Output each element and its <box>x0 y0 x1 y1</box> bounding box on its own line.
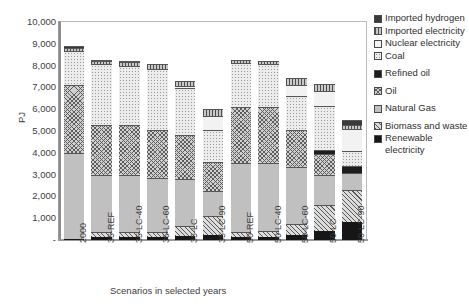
x-axis-tick-label: 2000 <box>78 223 88 243</box>
x-axis-tick-label: 35-REF <box>106 212 116 243</box>
legend-item[interactable]: Oil <box>374 85 469 97</box>
bar-segment-coal[interactable] <box>314 106 335 150</box>
legend-swatch-refined-oil-icon <box>374 70 382 78</box>
legend-label: Coal <box>385 50 405 62</box>
y-axis-tick-label: - <box>4 235 56 245</box>
legend-item[interactable]: Coal <box>374 50 469 62</box>
y-axis-tick-label: 7,000 <box>4 82 56 92</box>
bar-stack[interactable] <box>314 84 335 240</box>
bar-series-container <box>60 22 366 240</box>
bar-segment-oil[interactable] <box>64 85 85 153</box>
bar-segment-coal[interactable] <box>175 88 196 134</box>
bar-segment-oil[interactable] <box>91 125 112 175</box>
legend-swatch-natural-gas-icon <box>374 105 382 113</box>
legend-item[interactable]: Refined oil <box>374 67 469 79</box>
bar-segment-oil[interactable] <box>231 107 252 163</box>
bar-segment-nuclear-electricity[interactable] <box>203 116 224 130</box>
bar-segment-coal[interactable] <box>119 66 140 125</box>
y-axis-labels: 10,0009,0008,0007,0006,0005,0004,0003,00… <box>0 0 56 307</box>
y-axis-tick-label: 2,000 <box>4 191 56 201</box>
legend-item[interactable]: Renewable electricity <box>374 132 469 155</box>
y-axis-tick-label: 6,000 <box>4 104 56 114</box>
bar-segment-oil[interactable] <box>147 130 168 179</box>
x-axis-tick-label: 50-LC-60 <box>300 205 310 243</box>
bar-segment-coal[interactable] <box>231 63 252 107</box>
bar-segment-natural-gas[interactable] <box>342 173 363 190</box>
legend-item[interactable]: Imported hydrogen <box>374 12 469 24</box>
legend-swatch-renewable-electricity-icon <box>374 135 382 143</box>
y-axis-tick-label: 3,000 <box>4 170 56 180</box>
chart-legend: Imported hydrogenImported electricityNuc… <box>374 12 469 156</box>
legend-label: Oil <box>385 85 397 97</box>
y-axis-tick-label: 4,000 <box>4 148 56 158</box>
x-axis-tick-label: 50-LC-40 <box>273 205 283 243</box>
bar-segment-oil[interactable] <box>258 107 279 162</box>
x-axis-tick-label: 35-LC-60 <box>161 205 171 243</box>
bar-segment-oil[interactable] <box>203 162 224 191</box>
legend-swatch-coal-icon <box>374 52 382 60</box>
legend-item[interactable]: Biomass and waste <box>374 120 469 132</box>
legend-swatch-imported-electricity-icon <box>374 27 382 35</box>
legend-swatch-nuclear-electricity-icon <box>374 40 382 48</box>
legend-swatch-biomass-and-waste-icon <box>374 122 382 130</box>
x-axis-tick-label: 35-LC-40 <box>134 205 144 243</box>
legend-label: Natural Gas <box>385 102 436 114</box>
bar-segment-coal[interactable] <box>147 69 168 129</box>
bar-segment-oil[interactable] <box>119 125 140 175</box>
legend-label: Renewable electricity <box>385 132 469 155</box>
bar-segment-nuclear-electricity[interactable] <box>314 91 335 106</box>
bar-segment-imported-electricity[interactable] <box>286 78 307 85</box>
legend-swatch-oil-icon <box>374 87 382 95</box>
y-axis-tick-label: 1,000 <box>4 213 56 223</box>
y-axis-tick-label: 9,000 <box>4 39 56 49</box>
legend-label: Biomass and waste <box>385 120 467 132</box>
bar-segment-coal[interactable] <box>203 130 224 162</box>
bar-stack[interactable] <box>64 46 85 240</box>
x-axis-tick-label: 50-LC <box>328 218 338 243</box>
bar-segment-coal[interactable] <box>286 96 307 130</box>
legend-item[interactable]: Nuclear electricity <box>374 37 469 49</box>
legend-item[interactable]: Imported electricity <box>374 25 469 37</box>
bar-segment-nuclear-electricity[interactable] <box>286 85 307 96</box>
x-axis-tick-label: 35-LC-90 <box>217 205 227 243</box>
x-axis-tick-label: 35-LC <box>189 218 199 243</box>
bar-segment-coal[interactable] <box>64 51 85 85</box>
bar-segment-imported-electricity[interactable] <box>203 109 224 116</box>
y-axis-title: PJ <box>16 112 27 123</box>
x-axis-tick-label: 50-REF <box>245 212 255 243</box>
bar-segment-refined-oil[interactable] <box>342 166 363 173</box>
legend-label: Imported hydrogen <box>385 12 465 24</box>
legend-item[interactable]: Natural Gas <box>374 102 469 114</box>
bar-segment-oil[interactable] <box>175 135 196 179</box>
legend-swatch-imported-hydrogen-icon <box>374 15 382 23</box>
bar-stack[interactable] <box>175 81 196 240</box>
bar-segment-natural-gas[interactable] <box>314 175 335 205</box>
legend-label: Refined oil <box>385 67 430 79</box>
y-axis-tick-label: 10,000 <box>4 17 56 27</box>
bar-segment-oil[interactable] <box>286 130 307 168</box>
bar-segment-coal[interactable] <box>258 64 279 107</box>
bar-segment-nuclear-electricity[interactable] <box>342 129 363 151</box>
x-axis-title: Scenarios in selected years <box>110 285 226 296</box>
y-axis-tick-label: 5,000 <box>4 126 56 136</box>
bar-segment-coal[interactable] <box>342 151 363 166</box>
bar-segment-coal[interactable] <box>91 64 112 124</box>
bar-segment-oil[interactable] <box>314 154 335 174</box>
chart-root: 10,0009,0008,0007,0006,0005,0004,0003,00… <box>0 0 469 307</box>
y-axis-tick-label: 8,000 <box>4 61 56 71</box>
legend-label: Imported electricity <box>385 25 465 37</box>
legend-label: Nuclear electricity <box>385 37 460 49</box>
x-axis-tick-label: 50-LC-90 <box>356 205 366 243</box>
